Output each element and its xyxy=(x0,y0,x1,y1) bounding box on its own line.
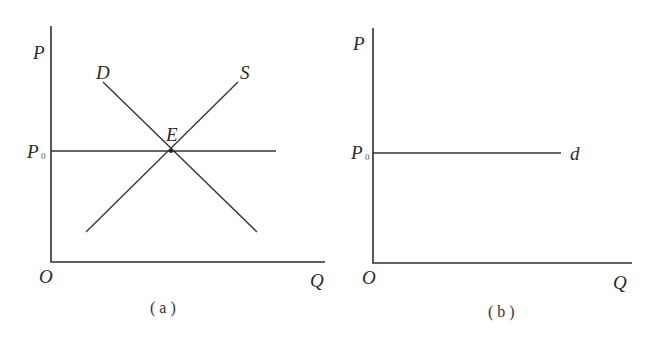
x-axis-label-b: Q xyxy=(613,272,627,293)
demand-curve xyxy=(103,82,257,232)
diagram-canvas: P P 0 D S E O Q ( a ) P P 0 d O Q ( b ) xyxy=(0,0,653,341)
panel-a: P P 0 D S E O Q ( a ) xyxy=(26,26,325,317)
origin-label-b: O xyxy=(362,267,376,288)
y-axis-label-a: P xyxy=(32,42,45,63)
supply-curve xyxy=(86,82,238,232)
axes-b xyxy=(373,28,632,263)
demand-label: D xyxy=(95,62,110,83)
equilibrium-point xyxy=(169,149,173,153)
price-label-a: P xyxy=(26,141,39,162)
x-axis-label-a: Q xyxy=(310,270,324,291)
price-label-sub-a: 0 xyxy=(41,151,46,161)
caption-a: ( a ) xyxy=(150,299,176,317)
y-axis-label-b: P xyxy=(352,33,365,54)
panel-b: P P 0 d O Q ( b ) xyxy=(350,28,632,321)
supply-label: S xyxy=(240,62,250,83)
origin-label-a: O xyxy=(39,266,53,287)
equilibrium-label: E xyxy=(165,124,178,145)
caption-b: ( b ) xyxy=(488,303,515,321)
price-label-sub-b: 0 xyxy=(365,152,370,162)
price-label-b: P xyxy=(350,142,363,163)
firm-demand-label: d xyxy=(570,143,580,164)
